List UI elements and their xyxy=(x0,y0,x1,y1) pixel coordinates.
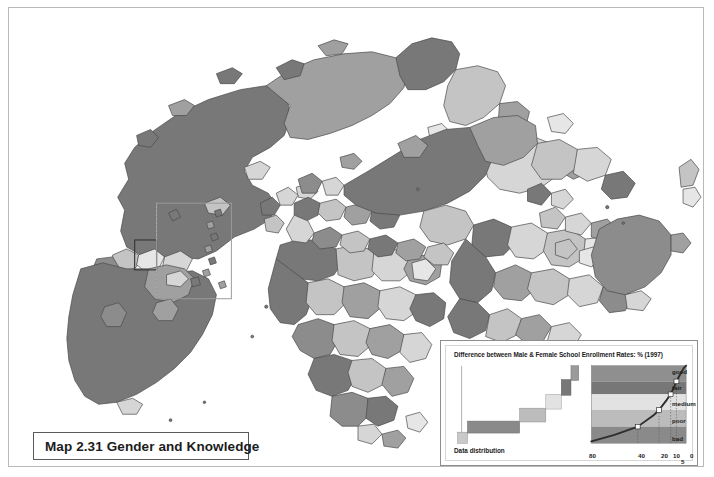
legend-panel[interactable]: Difference between Male & Female School … xyxy=(440,340,698,466)
map-title-text: Map 2.31 Gender and Knowledge xyxy=(45,439,259,454)
legend-inner-frame: Difference between Male & Female School … xyxy=(445,345,693,461)
axis-tick-20: 20 xyxy=(661,452,668,459)
region-south-america xyxy=(67,249,217,414)
legend-category-good: good xyxy=(672,368,687,375)
region-russia xyxy=(344,114,635,216)
map-title-box: Map 2.31 Gender and Knowledge xyxy=(33,432,249,460)
legend-category-fair: fair xyxy=(672,384,682,391)
legend-category-bad: bad xyxy=(672,435,683,442)
map-page: .cty{stroke:#4a4a4a;stroke-width:0.7;str… xyxy=(0,0,714,477)
legend-plot: good fair medium poor bad 80 40 20 10 5 … xyxy=(450,362,690,458)
legend-category-medium: medium xyxy=(672,400,696,407)
axis-tick-10: 10 xyxy=(673,452,680,459)
axis-tick-80: 80 xyxy=(589,452,596,459)
legend-chart-svg xyxy=(450,362,690,458)
legend-category-poor: poor xyxy=(672,417,686,424)
page-frame: .cty{stroke:#4a4a4a;stroke-width:0.7;str… xyxy=(8,7,704,467)
data-distribution-chart xyxy=(458,366,579,444)
data-distribution-label: Data distribution xyxy=(454,447,505,454)
axis-tick-0: 0 xyxy=(690,452,693,459)
legend-title: Difference between Male & Female School … xyxy=(454,351,688,362)
axis-tick-5: 5 xyxy=(681,458,684,465)
axis-tick-40: 40 xyxy=(638,452,645,459)
